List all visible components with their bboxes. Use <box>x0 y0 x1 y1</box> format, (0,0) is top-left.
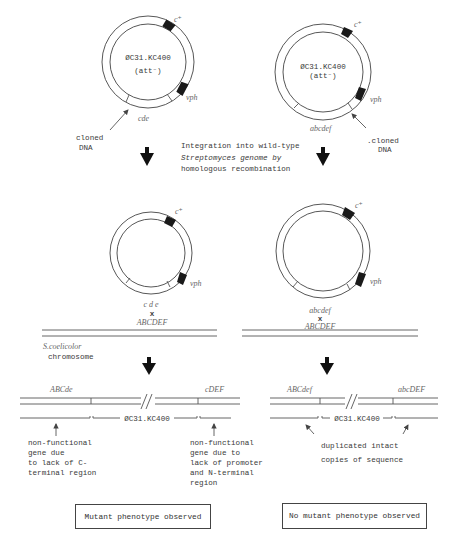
insert-label: cde <box>143 300 160 309</box>
note-right-line-2: gene due to <box>190 449 241 457</box>
note-left-line-3: to lack of C- <box>28 459 87 467</box>
plasmid-top-right: ØC31.KC400 (att⁻) c⁺ vph abcdef .cloned … <box>275 20 399 154</box>
plasmid-subtitle: (att⁻) <box>309 72 336 80</box>
marker-vph: vph <box>370 95 382 104</box>
down-arrow-icon <box>142 357 156 375</box>
plasmid-subtitle: (att⁻) <box>134 67 161 75</box>
svg-text:Integration into wild-type: Integration into wild-type <box>181 142 300 150</box>
down-arrow-icon <box>320 357 334 375</box>
plasmid-mid-right: c⁺ vph abcdef x ABCDEF <box>276 201 382 331</box>
chromosome-left <box>42 330 217 336</box>
plasmid-name: ØC31.KC400 <box>300 63 346 71</box>
note-right-line-1: non-functional <box>190 439 254 447</box>
svg-text:Streptomyces genome by: Streptomyces genome by <box>181 154 282 162</box>
chromosome-label-species: S.coelicolor <box>43 342 82 351</box>
pointer-arrow <box>306 425 314 434</box>
plasmid-mid-left: c⁺ vph cde x ABCDEF <box>110 207 202 327</box>
down-arrow-icon <box>316 147 330 166</box>
phage-insert-label: ØC31.KC400 <box>124 415 170 423</box>
marker-vph: vph <box>186 93 198 102</box>
note-right-line-3: lack of promoter <box>190 459 263 467</box>
outcome-label: Mutant phenotype observed <box>85 513 202 521</box>
marker-c-plus: c⁺ <box>354 20 362 29</box>
note-right-line-5: region <box>190 479 217 487</box>
gene-label-left: ABCdef <box>286 385 314 394</box>
note-left-line-2: gene due <box>28 449 65 457</box>
callout-line-1: cloned <box>76 134 103 142</box>
insert-label: abcdef <box>309 306 332 315</box>
result-right: ABCdef abcDEF ØC31.KC400 duplicated inta… <box>270 385 438 464</box>
callout-line-1: .cloned <box>367 137 399 145</box>
callout-line-2: DNA <box>79 144 93 152</box>
gene-label-left: ABCde <box>49 385 73 394</box>
marker-vph: vph <box>370 277 382 286</box>
pointer-arrow <box>403 425 408 434</box>
note-left-line-4: terminal region <box>28 469 96 477</box>
recombination-diagram: ØC31.KC400 (att⁻) c⁺ vph cde cloned DNA … <box>0 0 455 558</box>
phage-insert-label: ØC31.KC400 <box>334 415 380 423</box>
svg-text:homologous recombination: homologous recombination <box>181 165 290 173</box>
plasmid-name: ØC31.KC400 <box>125 54 171 62</box>
gene-label-right: cDEF <box>205 385 224 394</box>
callout-arrow <box>352 114 366 128</box>
result-left: ABCde cDEF ØC31.KC400 non-functional gen… <box>20 385 263 487</box>
note-line-2: copies of sequence <box>321 456 403 464</box>
plasmid-top-left: ØC31.KC400 (att⁻) c⁺ vph cde cloned DNA <box>76 15 198 152</box>
marker-c-plus: c⁺ <box>355 201 363 210</box>
cross-symbol: x <box>150 310 155 318</box>
marker-c-plus: c⁺ <box>174 15 182 24</box>
callout-line-2: DNA <box>378 146 392 154</box>
chromosome-label-word: chromosome <box>48 353 94 361</box>
callout-arrow <box>110 110 128 130</box>
outcome-box-no-mutant: No mutant phenotype observed <box>282 503 427 529</box>
down-arrow-icon <box>140 147 154 166</box>
outcome-label: No mutant phenotype observed <box>289 512 420 520</box>
marker-vph: vph <box>190 279 202 288</box>
note-left-line-1: non-functional <box>28 439 92 447</box>
note-line-1: duplicated intact <box>321 442 398 450</box>
step-caption: Integration into wild-type Streptomyces … <box>181 142 300 173</box>
insert-label: cde <box>138 114 150 123</box>
gene-label-right: abcDEF <box>398 385 425 394</box>
outcome-box-mutant: Mutant phenotype observed <box>75 504 211 529</box>
target-label: ABCDEF <box>136 318 168 327</box>
note-right-line-4: and N-terminal <box>190 469 254 477</box>
insert-label: abcdef <box>310 124 333 133</box>
marker-c-plus: c⁺ <box>175 207 183 216</box>
